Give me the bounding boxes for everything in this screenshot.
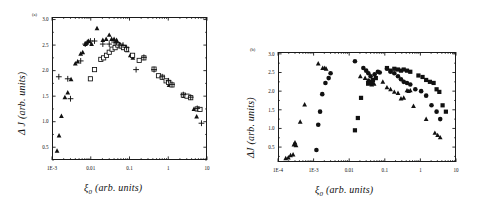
data-point <box>440 103 444 107</box>
data-point <box>318 109 323 114</box>
data-point <box>368 74 373 79</box>
data-point <box>291 152 296 156</box>
data-point <box>420 75 424 79</box>
x-tick-label: 0.01 <box>86 165 95 171</box>
data-point <box>385 85 390 89</box>
data-point <box>353 59 358 64</box>
data-point <box>353 128 357 132</box>
x-tick-label: 1 <box>167 165 170 171</box>
panel-b-xaxis-title: ξ0 (arb. units) <box>315 184 373 198</box>
data-point <box>424 117 429 121</box>
data-point <box>293 140 298 144</box>
panel-a-xsub: 0 <box>88 188 92 196</box>
series-plus <box>56 38 204 126</box>
x-tick-label: 1E-4 <box>273 167 283 173</box>
data-point <box>429 103 434 108</box>
data-point <box>133 67 139 73</box>
data-point <box>385 66 389 70</box>
data-point <box>302 102 307 106</box>
y-tick-label: 1.0 <box>268 125 275 131</box>
y-tick-label: 2.5 <box>42 42 49 48</box>
x-tick-label: 1 <box>419 167 422 173</box>
data-point <box>374 76 378 80</box>
panel-a-xrest: (arb. units) <box>95 182 142 193</box>
data-point <box>56 74 62 80</box>
x-tick-label: 1E-3 <box>47 165 57 171</box>
data-point <box>424 78 428 82</box>
data-point <box>438 117 443 122</box>
data-point <box>380 79 385 83</box>
data-point <box>408 82 413 87</box>
data-point <box>298 119 303 123</box>
panel-a-xaxis-title: ξ0 (arb. units) <box>84 182 142 196</box>
data-point <box>328 71 333 76</box>
y-tick-label: 2.0 <box>268 88 275 94</box>
x-tick-label: 0.1 <box>126 165 133 171</box>
panel-b: (b) 1E-41E-30.010.11100.51.01.52.02.53.0… <box>237 0 477 218</box>
data-point <box>363 76 368 80</box>
data-point <box>199 120 205 126</box>
panel-a: (a) 1E-30.010.11100.51.01.52.02.53.0 ξ0 … <box>0 0 237 218</box>
data-point <box>130 53 134 57</box>
panel-b-xrest: (arb. units) <box>326 184 373 195</box>
data-point <box>55 148 60 152</box>
panel-b-xsub: 0 <box>319 190 323 198</box>
y-tick-label: 0.5 <box>42 144 49 150</box>
data-point <box>392 89 397 93</box>
x-tick-label: 0.01 <box>345 167 354 173</box>
y-tick-label: 3.0 <box>42 16 49 22</box>
data-point <box>63 95 68 99</box>
data-point <box>95 26 100 30</box>
data-point <box>358 74 363 78</box>
data-point <box>326 76 331 81</box>
x-tick-label: 1E-3 <box>309 167 319 173</box>
data-point <box>411 104 416 108</box>
series-filled-circle <box>314 59 442 152</box>
data-point <box>323 81 328 86</box>
data-point <box>396 91 401 95</box>
data-point <box>432 130 437 134</box>
data-point <box>428 80 432 84</box>
y-tick-label: 2.5 <box>268 69 275 75</box>
data-point <box>316 122 321 127</box>
data-point <box>92 68 96 72</box>
data-point <box>432 81 436 85</box>
data-point <box>314 148 319 153</box>
y-tick-label: 3.0 <box>268 51 275 57</box>
data-point <box>388 69 392 73</box>
data-point <box>401 95 406 99</box>
data-point <box>413 87 418 92</box>
data-point <box>424 93 429 98</box>
y-tick-label: 1.5 <box>42 93 49 99</box>
data-point <box>65 90 70 94</box>
data-point <box>194 114 199 118</box>
data-point <box>57 133 62 137</box>
y-tick-label: 0.5 <box>268 144 275 150</box>
series-open-square <box>88 43 202 112</box>
data-point <box>316 61 321 65</box>
figure-container: (a) 1E-30.010.11100.51.01.52.02.53.0 ξ0 … <box>0 0 477 218</box>
y-tick-label: 1.5 <box>268 107 275 113</box>
data-point <box>359 96 363 100</box>
data-point <box>434 109 439 114</box>
data-point <box>408 70 412 74</box>
data-point <box>104 36 109 40</box>
x-tick-label: 0.1 <box>382 167 389 173</box>
data-point <box>444 110 448 114</box>
x-tick-label: 10 <box>453 167 459 173</box>
data-point <box>107 32 112 36</box>
x-tick-label: 10 <box>204 165 210 171</box>
data-point <box>392 67 396 71</box>
data-point <box>59 114 64 118</box>
panel-a-yaxis-title: Δ J (arb. units) <box>16 72 27 135</box>
data-point <box>92 38 98 44</box>
data-point <box>437 90 441 94</box>
data-point <box>320 92 325 97</box>
panel-b-yaxis-title: ΔJ (arb. units) <box>245 97 256 158</box>
data-point <box>377 70 382 75</box>
y-tick-label: 1.0 <box>42 118 49 124</box>
data-point <box>419 89 424 94</box>
data-point <box>356 116 360 120</box>
data-point <box>68 96 74 102</box>
data-point <box>392 71 397 76</box>
